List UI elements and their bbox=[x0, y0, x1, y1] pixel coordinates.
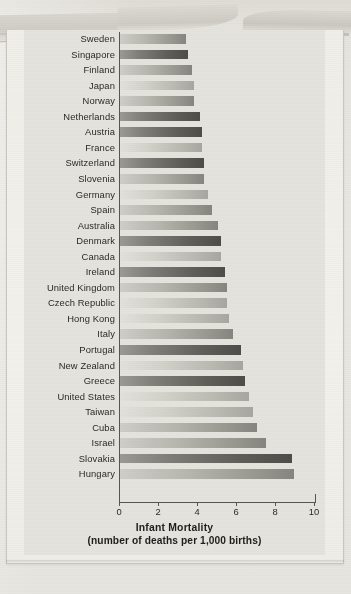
bar-row: Greece bbox=[24, 374, 325, 390]
bar bbox=[120, 127, 202, 137]
bar bbox=[120, 221, 218, 231]
x-axis-ticks: 0246810 bbox=[24, 502, 325, 518]
bar bbox=[120, 96, 194, 106]
bar-row: Australia bbox=[24, 219, 325, 235]
bar bbox=[120, 283, 227, 293]
bar bbox=[120, 174, 204, 184]
bar-row: Czech Republic bbox=[24, 296, 325, 312]
bar-category-label: Norway bbox=[0, 95, 115, 107]
bar-category-label: Finland bbox=[0, 64, 115, 76]
x-axis-title-main: Infant Mortality bbox=[24, 522, 325, 533]
bar-row: Ireland bbox=[24, 265, 325, 281]
bar-category-label: Hungary bbox=[0, 468, 115, 480]
bar-category-label: Israel bbox=[0, 437, 115, 449]
bar bbox=[120, 34, 186, 44]
bar-row: Germany bbox=[24, 188, 325, 204]
bar-row: Hong Kong bbox=[24, 312, 325, 328]
bar-row: Sweden bbox=[24, 32, 325, 48]
bar bbox=[120, 267, 225, 277]
bar-row: Spain bbox=[24, 203, 325, 219]
bar bbox=[120, 454, 292, 464]
bar-row: Netherlands bbox=[24, 110, 325, 126]
bar-category-label: Japan bbox=[0, 80, 115, 92]
bar-row: Norway bbox=[24, 94, 325, 110]
bar-category-label: Singapore bbox=[0, 49, 115, 61]
bar bbox=[120, 361, 243, 371]
bar-category-label: Germany bbox=[0, 189, 115, 201]
bar-row: New Zealand bbox=[24, 359, 325, 375]
bar bbox=[120, 158, 204, 168]
bar bbox=[120, 376, 245, 386]
bar-row: France bbox=[24, 141, 325, 157]
bar-category-label: Ireland bbox=[0, 266, 115, 278]
bar-row: Singapore bbox=[24, 48, 325, 64]
x-tick-label: 0 bbox=[116, 506, 121, 517]
bar-category-label: Denmark bbox=[0, 235, 115, 247]
bar bbox=[120, 81, 194, 91]
bar-category-label: Australia bbox=[0, 220, 115, 232]
bar bbox=[120, 65, 192, 75]
bar-row: United States bbox=[24, 390, 325, 406]
x-axis-title: Infant Mortality (number of deaths per 1… bbox=[24, 522, 325, 546]
bar-category-label: United States bbox=[0, 391, 115, 403]
bar bbox=[120, 438, 266, 448]
x-tick-label: 8 bbox=[272, 506, 277, 517]
bar-row: Hungary bbox=[24, 467, 325, 483]
bar bbox=[120, 112, 200, 122]
bar-row: Denmark bbox=[24, 234, 325, 250]
bar-row: Italy bbox=[24, 327, 325, 343]
bar-category-label: Italy bbox=[0, 328, 115, 340]
x-tick-label: 4 bbox=[194, 506, 199, 517]
bar-category-label: Hong Kong bbox=[0, 313, 115, 325]
bar-category-label: Austria bbox=[0, 126, 115, 138]
bar bbox=[120, 423, 257, 433]
bar-row: Taiwan bbox=[24, 405, 325, 421]
bar bbox=[120, 392, 249, 402]
bar-category-label: United Kingdom bbox=[0, 282, 115, 294]
x-tick-label: 2 bbox=[155, 506, 160, 517]
infant-mortality-bar-chart: SwedenSingaporeFinlandJapanNorwayNetherl… bbox=[24, 30, 325, 555]
bar-category-label: Greece bbox=[0, 375, 115, 387]
page-bottom-shadow bbox=[6, 560, 344, 563]
bar bbox=[120, 407, 253, 417]
bar bbox=[120, 143, 202, 153]
bar bbox=[120, 469, 294, 479]
bar-category-label: Taiwan bbox=[0, 406, 115, 418]
bar-row: Slovakia bbox=[24, 452, 325, 468]
bar-category-label: Portugal bbox=[0, 344, 115, 356]
bar-category-label: New Zealand bbox=[0, 360, 115, 372]
bar bbox=[120, 252, 221, 262]
x-tick-label: 10 bbox=[309, 506, 319, 517]
bar-category-label: Netherlands bbox=[0, 111, 115, 123]
bar-row: Switzerland bbox=[24, 156, 325, 172]
bar-row: Austria bbox=[24, 125, 325, 141]
bar-category-label: Spain bbox=[0, 204, 115, 216]
bar bbox=[120, 50, 188, 60]
bar-row: United Kingdom bbox=[24, 281, 325, 297]
bar bbox=[120, 205, 212, 215]
bar-category-label: Switzerland bbox=[0, 157, 115, 169]
bar-category-label: Sweden bbox=[0, 33, 115, 45]
bar-row: Cuba bbox=[24, 421, 325, 437]
bar-row: Slovenia bbox=[24, 172, 325, 188]
bar bbox=[120, 236, 221, 246]
x-axis-title-sub: (number of deaths per 1,000 births) bbox=[24, 535, 325, 546]
bar-category-label: Czech Republic bbox=[0, 297, 115, 309]
bar bbox=[120, 190, 208, 200]
bar bbox=[120, 329, 233, 339]
bar-row: Japan bbox=[24, 79, 325, 95]
bar bbox=[120, 314, 229, 324]
bar-row: Portugal bbox=[24, 343, 325, 359]
bar-category-label: Slovenia bbox=[0, 173, 115, 185]
bar bbox=[120, 298, 227, 308]
bar-row: Finland bbox=[24, 63, 325, 79]
plot-area: SwedenSingaporeFinlandJapanNorwayNetherl… bbox=[24, 32, 325, 502]
bar-row: Canada bbox=[24, 250, 325, 266]
bar-row: Israel bbox=[24, 436, 325, 452]
x-tick-label: 6 bbox=[233, 506, 238, 517]
bar-category-label: France bbox=[0, 142, 115, 154]
bar-category-label: Slovakia bbox=[0, 453, 115, 465]
bar-category-label: Canada bbox=[0, 251, 115, 263]
bar bbox=[120, 345, 241, 355]
bar-category-label: Cuba bbox=[0, 422, 115, 434]
